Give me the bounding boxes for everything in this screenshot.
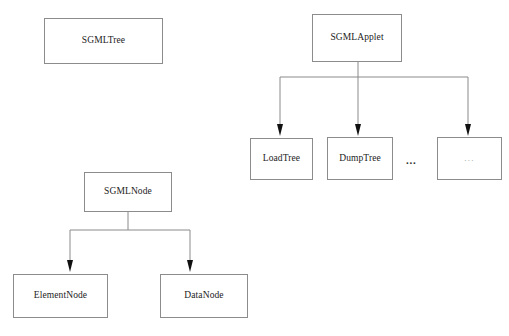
- arrowhead-dumptree: [355, 124, 361, 136]
- node-sgmltree[interactable]: SGMLTree: [44, 18, 163, 64]
- node-label-applet-more: ...: [464, 154, 474, 163]
- node-label-datanode: DataNode: [184, 291, 223, 301]
- node-label-sgmlapplet: SGMLApplet: [330, 33, 383, 43]
- node-sgmlapplet[interactable]: SGMLApplet: [312, 14, 402, 62]
- node-sgmlnode[interactable]: SGMLNode: [84, 172, 172, 212]
- node-label-elementnode: ElementNode: [34, 291, 87, 301]
- node-label-dumptree: DumpTree: [339, 154, 381, 164]
- node-label-sgmltree: SGMLTree: [82, 36, 125, 46]
- edge-group-sgmlapplet: [277, 62, 471, 136]
- node-dumptree[interactable]: DumpTree: [327, 137, 393, 180]
- arrowhead-datanode: [187, 260, 193, 272]
- node-datanode[interactable]: DataNode: [160, 274, 248, 318]
- arrowhead-applet-more: [465, 124, 471, 136]
- ellipsis-marker: ...: [406, 155, 417, 166]
- edge-group-sgmlnode: [67, 212, 193, 272]
- diagram-canvas: SGMLTree SGMLApplet LoadTree DumpTree ..…: [0, 0, 509, 336]
- node-loadtree[interactable]: LoadTree: [250, 138, 313, 180]
- arrowhead-loadtree: [277, 124, 283, 136]
- node-label-sgmlnode: SGMLNode: [104, 187, 152, 197]
- node-label-loadtree: LoadTree: [263, 154, 300, 164]
- node-applet-more[interactable]: ...: [437, 137, 502, 180]
- arrowhead-elementnode: [67, 260, 73, 272]
- node-elementnode[interactable]: ElementNode: [13, 274, 108, 318]
